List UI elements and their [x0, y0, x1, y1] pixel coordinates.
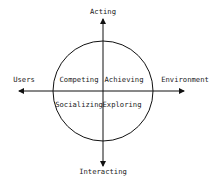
quadrant-label-achieving: Achieving	[105, 75, 144, 84]
axis-label-users: Users	[13, 75, 35, 84]
axis-label-interacting: Interacting	[79, 167, 127, 176]
quadrant-label-competing: Competing	[60, 75, 99, 84]
quadrant-label-socializing: Socializing	[55, 100, 103, 109]
axis-label-environment: Environment	[161, 75, 209, 84]
axis-label-acting: Acting	[90, 7, 116, 16]
quadrant-label-exploring: Exploring	[103, 100, 142, 109]
player-types-diagram: Acting Interacting Users Environment Com…	[0, 0, 216, 181]
